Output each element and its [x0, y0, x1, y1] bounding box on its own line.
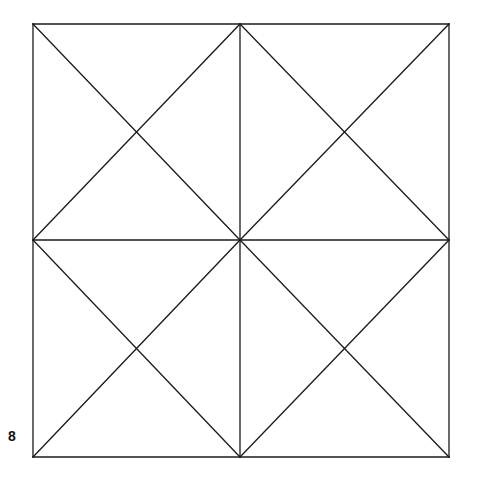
figure-number-label: 8: [8, 428, 16, 444]
diagram-lines: [33, 24, 449, 457]
square-grid-diagram: [0, 0, 477, 478]
